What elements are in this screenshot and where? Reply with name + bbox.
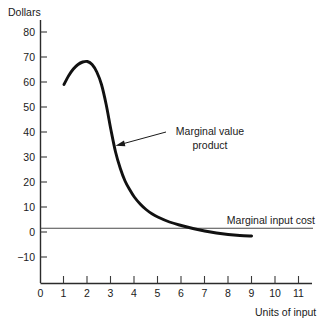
y-tick-label-10: 10 [23, 201, 35, 213]
x-tick-label-0: 0 [38, 287, 44, 299]
chart-container: Dollars 80 70 60 50 40 30 20 10 0 [0, 0, 324, 323]
y-tick-label-20: 20 [23, 176, 35, 188]
x-tick-label-5: 5 [155, 287, 161, 299]
mvp-annotation-line2: product [192, 139, 227, 151]
y-tick-label-30: 30 [23, 151, 35, 163]
y-tick-label-neg10: −10 [17, 251, 35, 263]
y-tick-label-60: 60 [23, 76, 35, 88]
x-tick-label-2: 2 [84, 287, 90, 299]
x-tick-label-7: 7 [202, 287, 208, 299]
marginal-input-cost-annotation: Marginal input cost [227, 214, 315, 226]
mvp-annotation-line1: Marginal value [176, 125, 244, 137]
y-axis-ticks: 80 70 60 50 40 30 20 10 0 −10 [17, 26, 47, 263]
x-tick-label-3: 3 [108, 287, 114, 299]
x-tick-label-4: 4 [131, 287, 137, 299]
x-axis-ticks: 0 1 2 3 4 5 6 7 8 9 10 11 [38, 276, 305, 299]
y-tick-label-50: 50 [23, 101, 35, 113]
y-axis-title: Dollars [8, 6, 41, 18]
marginal-value-product-chart: Dollars 80 70 60 50 40 30 20 10 0 [0, 0, 324, 323]
x-tick-label-1: 1 [61, 287, 67, 299]
x-tick-label-8: 8 [225, 287, 231, 299]
y-tick-label-70: 70 [23, 51, 35, 63]
x-tick-label-9: 9 [249, 287, 255, 299]
x-tick-label-11: 11 [293, 287, 304, 299]
x-tick-label-6: 6 [178, 287, 184, 299]
x-axis-title: Units of input [255, 306, 316, 318]
y-tick-label-0: 0 [29, 226, 35, 238]
x-tick-label-10: 10 [269, 287, 281, 299]
y-tick-label-80: 80 [23, 26, 35, 38]
mvp-leader-line [122, 132, 166, 144]
y-tick-label-40: 40 [23, 126, 35, 138]
marginal-value-product-annotation: Marginal value product [116, 125, 245, 151]
mvp-arrow-head [116, 141, 126, 147]
